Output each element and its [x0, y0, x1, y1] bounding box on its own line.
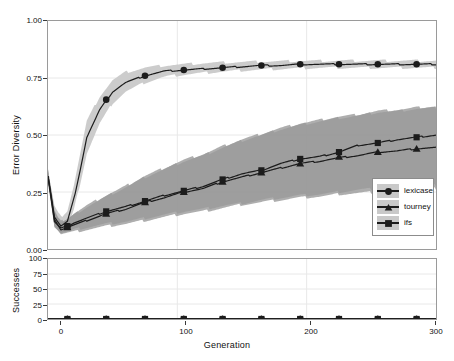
successes-svg	[48, 259, 436, 319]
x-tickmark-100	[185, 321, 186, 325]
y-tickmark-top-0.00	[43, 250, 47, 251]
y-tick-label-top-0.25: 0.25	[16, 189, 42, 198]
x-tick-label-300: 300	[425, 327, 447, 336]
y-tickmark-bottom-0	[43, 320, 47, 321]
y-tick-label-bottom-75: 75	[16, 270, 42, 279]
y-tick-label-bottom-50: 50	[16, 285, 42, 294]
legend-marker-triangle-icon	[377, 200, 399, 214]
y-tickmark-bottom-25	[43, 305, 47, 306]
y-tick-label-top-0.50: 0.50	[16, 131, 42, 140]
legend-label-tourney: tourney	[404, 203, 431, 211]
x-tickmark-200	[310, 321, 311, 325]
legend-item-tourney[interactable]: tourney	[377, 199, 428, 215]
y-tick-label-bottom-100: 100	[16, 254, 42, 263]
y-tick-label-top-0.75: 0.75	[16, 74, 42, 83]
x-axis-title-generation: Generation	[0, 340, 454, 350]
figure-root: Error Diversity 1.00 0.75 0.50 0.25 0.00…	[0, 0, 454, 361]
successes-plot-panel	[47, 258, 437, 320]
x-tick-label-100: 100	[175, 327, 197, 336]
x-tickmark-300	[435, 321, 436, 325]
y-tickmark-bottom-50	[43, 289, 47, 290]
y-tickmark-top-0.25	[43, 193, 47, 194]
legend-label-lexicase: lexicase	[404, 187, 433, 195]
y-tickmark-bottom-100	[43, 258, 47, 259]
x-tickmark-0	[60, 321, 61, 325]
legend-marker-square-icon	[377, 216, 399, 230]
x-tick-label-0: 0	[55, 327, 67, 336]
legend-item-lexicase[interactable]: lexicase	[377, 183, 428, 199]
legend-label-ifs: ifs	[404, 219, 412, 227]
y-tickmark-top-1.00	[43, 20, 47, 21]
legend: lexicase tourney ifs	[372, 178, 434, 236]
legend-item-ifs[interactable]: ifs	[377, 215, 428, 231]
y-tick-label-top-1.00: 1.00	[16, 16, 42, 25]
y-tick-label-bottom-25: 25	[16, 301, 42, 310]
x-tick-label-200: 200	[300, 327, 322, 336]
y-tickmark-top-0.50	[43, 135, 47, 136]
legend-marker-circle-icon	[377, 184, 399, 198]
y-axis-title-error-diversity: Error Diversity	[11, 115, 21, 175]
y-tick-label-bottom-0: 0	[16, 316, 42, 325]
y-tickmark-bottom-75	[43, 274, 47, 275]
y-tickmark-top-0.75	[43, 78, 47, 79]
